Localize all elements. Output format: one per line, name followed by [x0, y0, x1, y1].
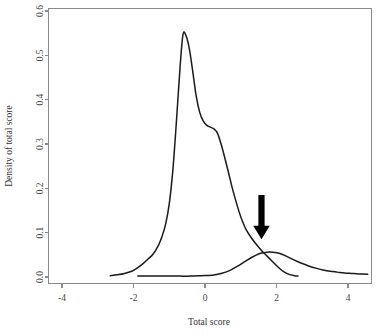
x-axis-title: Total score: [188, 317, 230, 327]
y-tick-label: 0.5: [35, 49, 45, 61]
chart-annotations: [253, 195, 269, 239]
y-tick-label: 0.2: [35, 182, 45, 194]
y-tick-label: 0.4: [35, 93, 45, 105]
x-tick-label: 4: [346, 293, 351, 303]
y-tick-label: 0.0: [35, 271, 45, 283]
x-tick-label: 2: [274, 293, 279, 303]
y-tick-label: 0.1: [35, 226, 45, 238]
density-curve-2: [138, 252, 368, 276]
plot-canvas: 0.00.10.20.30.40.50.6 -4-2024 Total scor…: [0, 0, 379, 334]
y-tick-label: 0.6: [35, 5, 45, 17]
plot-box-border: [49, 9, 372, 284]
density-plot-figure: 0.00.10.20.30.40.50.6 -4-2024 Total scor…: [0, 0, 379, 334]
y-tick-label: 0.3: [35, 138, 45, 150]
density-curve-1: [110, 32, 298, 276]
density-curves: [110, 32, 367, 276]
x-tick-label: -2: [130, 293, 138, 303]
x-tick-label: 0: [203, 293, 208, 303]
y-axis-ticks: 0.00.10.20.30.40.50.6: [35, 5, 49, 283]
y-axis-title: Density of total score: [4, 105, 14, 187]
x-axis-ticks: -4-2024: [58, 284, 351, 303]
cutoff-arrow-icon: [253, 195, 269, 239]
plot-frame: [49, 9, 372, 284]
x-tick-label: -4: [58, 293, 66, 303]
